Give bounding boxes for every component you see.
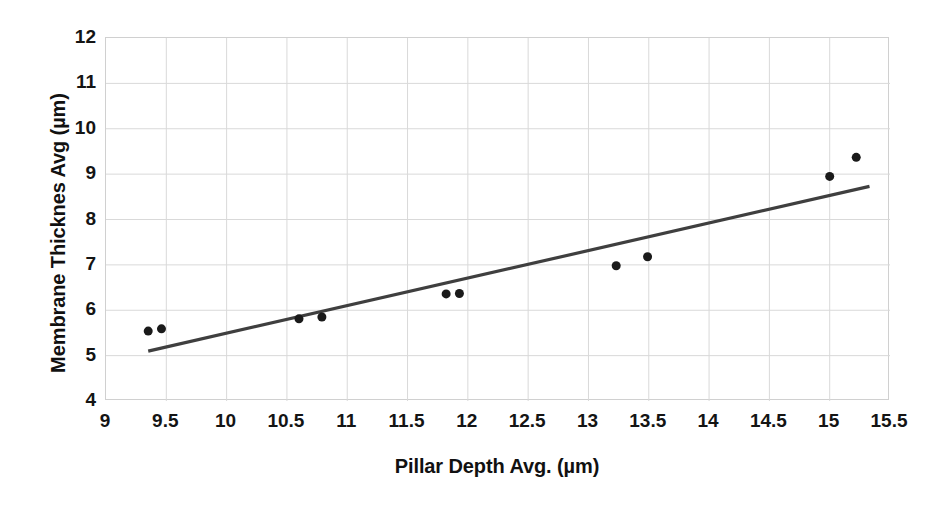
plot-area (105, 37, 889, 400)
data-series (106, 38, 890, 401)
scatter-chart: Membrane Thicknes Avg (µm) 456789101112 … (0, 0, 938, 506)
y-axis-tick-label: 9 (50, 163, 96, 182)
data-point (455, 289, 464, 298)
y-axis-tick-label: 5 (50, 345, 96, 364)
data-point (442, 289, 451, 298)
y-axis-tick-label: 10 (50, 118, 96, 137)
data-point (317, 313, 326, 322)
data-point (144, 327, 153, 336)
trendline (148, 186, 869, 351)
data-point (294, 314, 303, 323)
data-point (852, 153, 861, 162)
data-point (157, 324, 166, 333)
y-axis-tick-label: 8 (50, 209, 96, 228)
x-axis-tick-label: 15.5 (854, 411, 924, 430)
y-axis-tick-label: 12 (50, 27, 96, 46)
x-axis-tick-labels: 99.51010.51111.51212.51313.51414.51515.5 (0, 411, 938, 439)
data-point (643, 252, 652, 261)
data-point (612, 261, 621, 270)
y-axis-tick-label: 7 (50, 254, 96, 273)
data-point (825, 172, 834, 181)
x-axis-title: Pillar Depth Avg. (µm) (105, 455, 889, 478)
y-axis-tick-label: 4 (50, 390, 96, 409)
y-axis-tick-label: 11 (50, 72, 96, 91)
y-axis-tick-label: 6 (50, 299, 96, 318)
